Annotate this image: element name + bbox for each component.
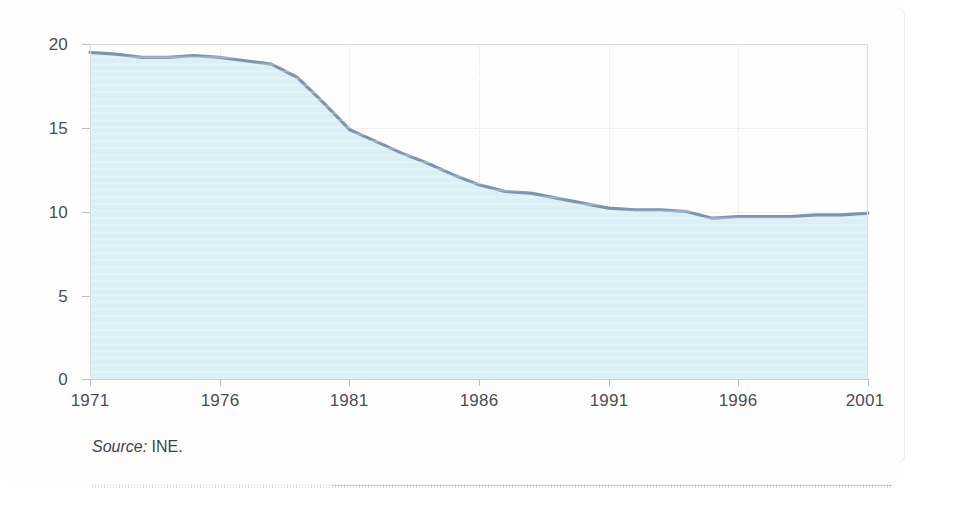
x-tick-mark-1976 [220,379,221,386]
x-tick-label-1971: 1971 [45,391,135,411]
x-tick-mark-2001 [868,379,869,386]
x-tick-mark-1986 [479,379,480,386]
x-tick-mark-1996 [738,379,739,386]
x-tick-label-1996: 1996 [693,391,783,411]
source-note: Source: INE. [92,438,183,456]
series-area-rate [90,44,868,379]
page-scan-edge-line [332,485,892,486]
y-tick-label-15: 15 [22,119,68,139]
y-tick-label-0: 0 [22,370,68,390]
x-tick-mark-1981 [349,379,350,386]
x-tick-mark-1991 [609,379,610,386]
x-tick-label-2001: 2001 [820,391,910,411]
y-tick-label-5: 5 [22,287,68,307]
x-tick-label-1986: 1986 [434,391,524,411]
x-tick-label-1981: 1981 [304,391,394,411]
x-tick-label-1991: 1991 [564,391,654,411]
plot-area [90,44,868,379]
x-tick-label-1976: 1976 [175,391,265,411]
y-tick-label-20: 20 [22,35,68,55]
source-note-value: INE. [152,438,183,455]
x-tick-mark-1971 [90,379,91,386]
y-tick-label-10: 10 [22,203,68,223]
area-chart: 20 15 10 5 0 1971 1976 1981 1986 1991 19… [2,0,902,482]
figure-card: 20 15 10 5 0 1971 1976 1981 1986 1991 19… [2,0,902,482]
source-note-label: Source: [92,438,147,455]
